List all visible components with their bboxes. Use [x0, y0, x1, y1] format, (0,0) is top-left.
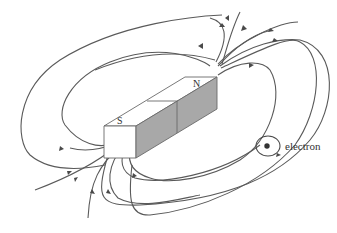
arrow-icon [249, 63, 254, 68]
arrow-icon [59, 146, 64, 151]
north-pole-label: N [193, 78, 200, 89]
south-pole-label: S [117, 115, 123, 126]
field-line-outer-3 [95, 54, 215, 70]
arrow-icon [74, 177, 78, 182]
field-line-right-1 [218, 22, 298, 64]
arrow-icon [225, 15, 229, 21]
arrow-icon [106, 189, 111, 194]
electron-spin-arrow-icon [276, 153, 281, 157]
bar-magnet: N S [104, 77, 217, 158]
electron: electron [256, 136, 321, 157]
magnetic-field-diagram: N S electron [0, 0, 337, 233]
arrow-icon [241, 25, 247, 31]
arrow-icon [198, 43, 203, 49]
field-line-right-6 [218, 30, 272, 66]
magnet-south-face [104, 126, 136, 158]
electron-label: electron [285, 140, 321, 152]
electron-dot-icon [264, 143, 269, 148]
